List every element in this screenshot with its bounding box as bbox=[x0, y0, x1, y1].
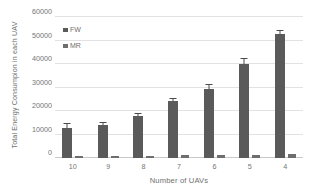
legend-item-mr[interactable]: MR bbox=[63, 42, 81, 50]
bar-wrapper bbox=[288, 154, 296, 158]
bar-wrapper bbox=[181, 155, 189, 158]
x-axis-tick-label: 6 bbox=[197, 162, 232, 171]
bar-fw-8[interactable] bbox=[133, 116, 143, 158]
y-axis-tick-label: 0 bbox=[16, 149, 52, 157]
x-axis-tick-label: 4 bbox=[268, 162, 303, 171]
error-bar bbox=[244, 59, 245, 63]
bar-mr-8[interactable] bbox=[146, 156, 154, 158]
x-axis-tick-label: 5 bbox=[232, 162, 267, 171]
bar-mr-7[interactable] bbox=[181, 155, 189, 158]
bar-fw-9[interactable] bbox=[98, 125, 108, 158]
error-bar-cap bbox=[241, 58, 248, 59]
bar-wrapper bbox=[275, 34, 285, 158]
y-axis-tick-labels: 0100002000030000400005000060000 bbox=[16, 12, 52, 162]
error-bar-cap bbox=[64, 123, 71, 124]
bar-group bbox=[90, 17, 125, 158]
bar-wrapper bbox=[146, 156, 154, 158]
error-bar bbox=[67, 124, 68, 128]
y-axis-tick-label: 40000 bbox=[16, 55, 52, 63]
error-bar-cap bbox=[276, 30, 283, 31]
error-bar-cap bbox=[135, 113, 142, 114]
bar-wrapper bbox=[239, 64, 249, 158]
bar-group bbox=[197, 17, 232, 158]
bar-mr-6[interactable] bbox=[217, 155, 225, 158]
x-axis-title: Number of UAVs bbox=[55, 176, 303, 185]
bar-fw-6[interactable] bbox=[204, 89, 214, 158]
error-bar bbox=[138, 114, 139, 116]
x-axis-tick-labels: 10987654 bbox=[55, 162, 303, 171]
plot-area bbox=[55, 17, 303, 158]
x-axis-tick-label: 8 bbox=[126, 162, 161, 171]
error-bar-cap bbox=[99, 122, 106, 123]
error-bar bbox=[102, 123, 103, 125]
bar-wrapper bbox=[111, 156, 119, 158]
bar-mr-9[interactable] bbox=[111, 156, 119, 158]
bar-wrapper bbox=[204, 89, 214, 158]
bar-mr-10[interactable] bbox=[75, 156, 83, 158]
y-axis-tick-label: 60000 bbox=[16, 8, 52, 16]
bar-wrapper bbox=[217, 155, 225, 158]
legend-swatch-icon bbox=[63, 44, 68, 49]
legend: FWMR bbox=[63, 26, 81, 50]
y-axis-tick-label: 10000 bbox=[16, 126, 52, 134]
bar-group bbox=[126, 17, 161, 158]
bar-fw-10[interactable] bbox=[62, 128, 72, 158]
bar-wrapper bbox=[252, 155, 260, 158]
bar-wrapper bbox=[62, 128, 72, 158]
bar-fw-7[interactable] bbox=[168, 101, 178, 158]
bar-fw-4[interactable] bbox=[275, 34, 285, 158]
legend-item-fw[interactable]: FW bbox=[63, 26, 81, 34]
bar-wrapper bbox=[168, 101, 178, 158]
bar-groups bbox=[55, 17, 303, 158]
error-bar bbox=[173, 99, 174, 101]
error-bar bbox=[279, 31, 280, 34]
error-bar-cap bbox=[205, 84, 212, 85]
bar-wrapper bbox=[75, 156, 83, 158]
bar-wrapper bbox=[133, 116, 143, 158]
bar-wrapper bbox=[98, 125, 108, 158]
y-axis-tick-label: 30000 bbox=[16, 79, 52, 87]
bar-mr-5[interactable] bbox=[252, 155, 260, 158]
bar-chart: Total Energy Consumpion in each UAV 0100… bbox=[0, 0, 309, 195]
legend-label: FW bbox=[70, 26, 81, 34]
x-axis-tick-label: 9 bbox=[90, 162, 125, 171]
y-axis-tick-label: 50000 bbox=[16, 32, 52, 40]
bar-mr-4[interactable] bbox=[288, 154, 296, 158]
x-axis-tick-label: 10 bbox=[55, 162, 90, 171]
bar-fw-5[interactable] bbox=[239, 64, 249, 158]
x-axis-tick-label: 7 bbox=[161, 162, 196, 171]
bar-group bbox=[268, 17, 303, 158]
legend-label: MR bbox=[70, 42, 81, 50]
error-bar-cap bbox=[170, 98, 177, 99]
bar-group bbox=[232, 17, 267, 158]
bar-group bbox=[161, 17, 196, 158]
y-axis-tick-label: 20000 bbox=[16, 102, 52, 110]
error-bar bbox=[208, 85, 209, 89]
legend-swatch-icon bbox=[63, 28, 68, 33]
